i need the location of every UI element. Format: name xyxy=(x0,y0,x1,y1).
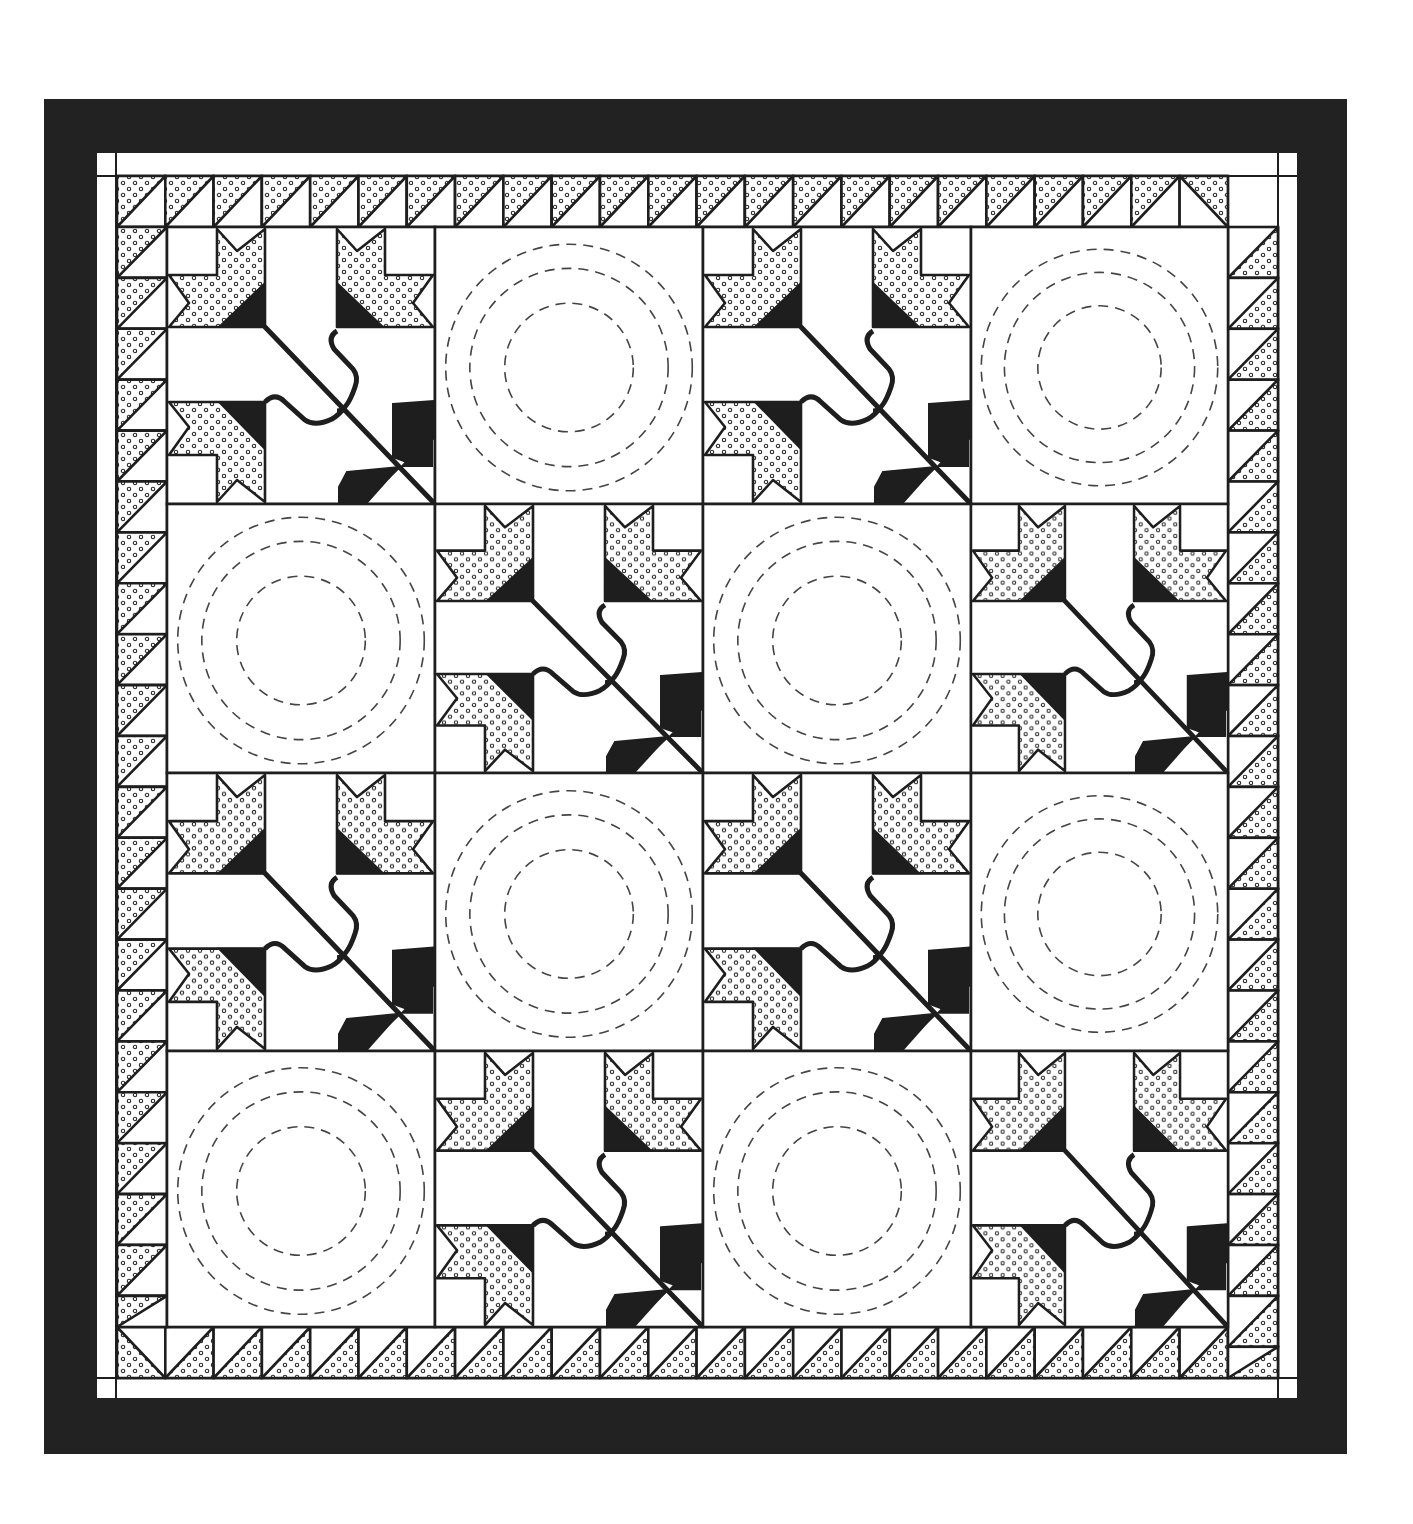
block-square xyxy=(971,773,1228,1051)
block-square xyxy=(703,504,971,773)
lily-block xyxy=(435,1051,703,1327)
half-square-triangle xyxy=(117,227,167,278)
half-square-triangle xyxy=(310,1327,358,1378)
half-square-triangle xyxy=(1228,482,1278,533)
half-square-triangle xyxy=(1083,176,1131,227)
half-square-triangle xyxy=(793,1327,841,1378)
half-square-triangle xyxy=(842,176,890,227)
half-square-triangle xyxy=(697,1327,745,1378)
half-square-triangle xyxy=(117,1245,167,1296)
half-square-triangle xyxy=(938,1327,986,1378)
half-square-triangle xyxy=(262,176,310,227)
half-square-triangle xyxy=(1228,1041,1278,1092)
half-square-triangle xyxy=(165,1327,213,1378)
half-square-triangle xyxy=(1228,278,1278,329)
half-square-triangle xyxy=(503,176,551,227)
half-square-triangle xyxy=(745,176,793,227)
block-square xyxy=(167,504,435,773)
half-square-triangle xyxy=(214,1327,262,1378)
half-square-triangle xyxy=(117,736,167,787)
half-square-triangle xyxy=(262,1327,310,1378)
lily-block xyxy=(703,227,971,504)
half-square-triangle xyxy=(1228,227,1278,278)
half-square-triangle xyxy=(117,329,167,380)
quilting-circle-block xyxy=(167,1051,435,1327)
half-square-triangle xyxy=(1180,1327,1228,1378)
quilting-circle-block xyxy=(971,773,1228,1051)
half-square-triangle xyxy=(1083,1327,1131,1378)
half-square-triangle xyxy=(1228,685,1278,736)
lily-block xyxy=(971,504,1228,773)
half-square-triangle xyxy=(600,1327,648,1378)
block-square xyxy=(971,227,1228,504)
half-square-triangle xyxy=(1228,1194,1278,1245)
half-square-triangle xyxy=(117,634,167,685)
half-square-triangle xyxy=(117,991,167,1042)
quilting-circle-block xyxy=(971,227,1228,504)
half-square-triangle xyxy=(1228,634,1278,685)
half-square-triangle xyxy=(842,1327,890,1378)
half-square-triangle xyxy=(117,940,167,991)
half-square-triangle xyxy=(1228,889,1278,940)
quilting-circle-block xyxy=(167,504,435,773)
half-square-triangle xyxy=(117,278,167,329)
half-square-triangle xyxy=(1035,176,1083,227)
half-square-triangle xyxy=(117,583,167,634)
half-square-triangle xyxy=(117,482,167,533)
half-square-triangle xyxy=(1228,991,1278,1042)
half-square-triangle xyxy=(938,176,986,227)
half-square-triangle xyxy=(1228,1245,1278,1296)
half-square-triangle xyxy=(1228,1092,1278,1143)
half-square-triangle xyxy=(117,431,167,482)
half-square-triangle xyxy=(648,176,696,227)
lily-block xyxy=(167,773,435,1051)
half-square-triangle xyxy=(1228,736,1278,787)
half-square-triangle xyxy=(165,176,213,227)
quilting-circle-block xyxy=(435,773,703,1051)
half-square-triangle xyxy=(890,1327,938,1378)
half-square-triangle xyxy=(1228,431,1278,482)
half-square-triangle xyxy=(359,176,407,227)
half-square-triangle xyxy=(986,176,1034,227)
half-square-triangle xyxy=(117,380,167,431)
half-square-triangle xyxy=(117,889,167,940)
half-square-triangle xyxy=(552,1327,600,1378)
half-square-triangle xyxy=(1131,176,1179,227)
quilting-circle-block xyxy=(703,504,971,773)
half-square-triangle xyxy=(117,1296,167,1327)
half-square-triangle xyxy=(117,685,167,736)
half-square-triangle xyxy=(407,1327,455,1378)
half-square-triangle xyxy=(1228,329,1278,380)
half-square-triangle xyxy=(1228,583,1278,634)
half-square-triangle xyxy=(455,176,503,227)
half-square-triangle xyxy=(1228,940,1278,991)
half-square-triangle xyxy=(117,787,167,838)
half-square-triangle xyxy=(600,176,648,227)
half-square-triangle xyxy=(117,838,167,889)
quilting-circle-block xyxy=(703,1051,971,1327)
half-square-triangle xyxy=(214,176,262,227)
half-square-triangle xyxy=(1228,787,1278,838)
half-square-triangle xyxy=(117,1092,167,1143)
half-square-triangle xyxy=(117,1041,167,1092)
lily-block xyxy=(167,227,435,504)
half-square-triangle xyxy=(503,1327,551,1378)
half-square-triangle xyxy=(793,176,841,227)
half-square-triangle xyxy=(1035,1327,1083,1378)
quilt-illustration xyxy=(0,0,1413,1524)
half-square-triangle xyxy=(745,1327,793,1378)
half-square-triangle xyxy=(1131,1327,1179,1378)
half-square-triangle xyxy=(117,1194,167,1245)
half-square-triangle xyxy=(117,1327,165,1378)
lily-block xyxy=(703,773,971,1051)
half-square-triangle xyxy=(552,176,600,227)
half-square-triangle xyxy=(359,1327,407,1378)
half-square-triangle xyxy=(310,176,358,227)
half-square-triangle xyxy=(1228,1347,1278,1378)
lily-block xyxy=(971,1051,1228,1327)
lily-block xyxy=(435,504,703,773)
half-square-triangle xyxy=(455,1327,503,1378)
half-square-triangle xyxy=(986,1327,1034,1378)
half-square-triangle xyxy=(117,1143,167,1194)
half-square-triangle xyxy=(407,176,455,227)
